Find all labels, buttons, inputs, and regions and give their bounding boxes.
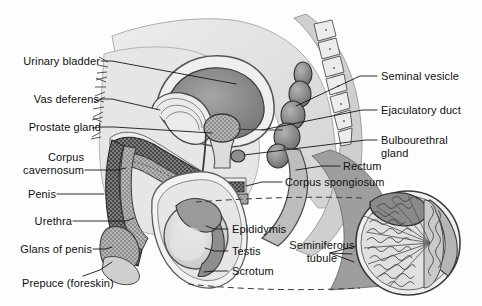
label-urethra: Urethra bbox=[0, 215, 72, 228]
label-urinary-bladder: Urinary bladder bbox=[0, 55, 100, 68]
label-corpus-cavernosum-line2: cavernosum bbox=[0, 164, 84, 177]
label-bulbourethral-gland-line1: Bulbourethral bbox=[381, 134, 448, 147]
label-seminiferous-tubule-line2: tubule bbox=[272, 252, 372, 265]
label-seminal-vesicle: Seminal vesicle bbox=[381, 70, 459, 83]
label-seminiferous-tubule-line1: Seminiferous bbox=[272, 239, 372, 252]
label-vas-deferens: Vas deferens bbox=[0, 93, 99, 106]
label-corpus-cavernosum-line1: Corpus bbox=[0, 151, 84, 164]
label-corpus-spongiosum: Corpus spongiosum bbox=[285, 176, 385, 189]
bulbourethral-gland bbox=[231, 150, 245, 162]
label-prostate-gland: Prostate gland bbox=[0, 121, 101, 134]
label-bulbourethral-gland-line2: gland bbox=[381, 147, 408, 160]
label-rectum: Rectum bbox=[343, 160, 382, 173]
prostate-gland bbox=[204, 114, 240, 142]
label-prepuce: Prepuce (foreskin) bbox=[22, 277, 114, 290]
label-scrotum: Scrotum bbox=[232, 265, 274, 278]
label-testis: Testis bbox=[232, 245, 261, 258]
label-penis: Penis bbox=[0, 188, 56, 201]
label-epididymis: Epididymis bbox=[232, 223, 286, 236]
glans-penis bbox=[100, 227, 139, 285]
label-ejaculatory-duct: Ejaculatory duct bbox=[381, 104, 461, 117]
label-glans-penis: Glans of penis bbox=[0, 243, 92, 256]
anatomy-figure: Urinary bladder Vas deferens Prostate gl… bbox=[0, 0, 482, 306]
